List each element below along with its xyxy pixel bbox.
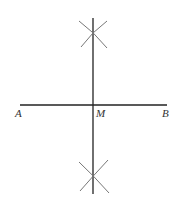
label-b: B xyxy=(162,107,169,119)
bottom-arc-intersection xyxy=(79,160,109,193)
arc-from-b-bottom xyxy=(80,160,108,191)
label-m: M xyxy=(95,107,106,119)
label-a: A xyxy=(14,107,22,119)
arc-from-a-bottom xyxy=(79,162,109,193)
bisector-diagram: A M B xyxy=(0,0,180,202)
